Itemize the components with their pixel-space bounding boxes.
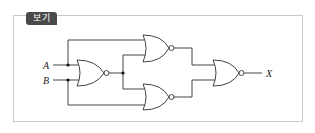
output-label-x: X xyxy=(265,68,273,79)
nor-gate-1 xyxy=(77,60,109,86)
nor-gate-3 xyxy=(143,84,174,110)
junction-dot-g1 xyxy=(121,71,124,74)
g2-g3-output-wires xyxy=(174,48,216,97)
logic-circuit: A B X xyxy=(0,0,315,133)
g1-output-wires xyxy=(109,55,146,89)
input-label-b: B xyxy=(43,75,49,86)
junction-dot-b xyxy=(66,78,69,81)
junction-dot-a xyxy=(66,63,69,66)
nor-gate-2 xyxy=(143,35,174,62)
input-label-a: A xyxy=(42,60,50,71)
nor-gate-4 xyxy=(213,60,244,86)
